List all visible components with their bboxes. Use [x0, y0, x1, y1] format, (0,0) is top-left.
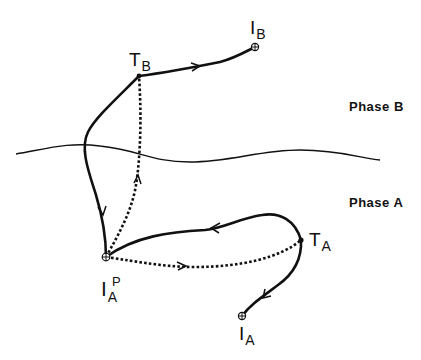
label-ia: IA — [239, 324, 254, 343]
marker-ta — [298, 237, 303, 242]
arrow-iap-tb — [134, 175, 141, 184]
region-label-phase-a: Phase A — [349, 196, 403, 209]
region-label-phase-b: Phase B — [349, 100, 404, 113]
path-ta-to-iap — [106, 214, 301, 257]
label-ta: TA — [309, 230, 330, 249]
marker-ib — [251, 43, 258, 50]
path-iap-to-ta-dotted — [106, 240, 301, 267]
path-ta-to-ia — [242, 240, 301, 316]
marker-iap — [102, 253, 110, 261]
phase-boundary — [16, 145, 380, 162]
label-ib: IB — [250, 18, 265, 37]
path-tb-to-iap — [85, 76, 139, 257]
marker-ia — [238, 312, 245, 319]
marker-tb — [137, 74, 142, 79]
path-tb-to-ib — [139, 47, 255, 76]
label-tb: TB — [129, 50, 150, 69]
label-iap: IA P — [101, 278, 116, 299]
diagram-canvas — [0, 0, 421, 360]
